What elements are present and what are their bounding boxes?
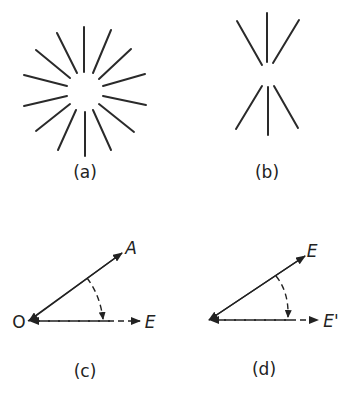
panel-b-lines [236, 13, 299, 135]
projection-label-e-prime: E' [323, 311, 338, 331]
caption-a: (a) [73, 162, 97, 182]
vector-e-back-arrow [209, 256, 305, 320]
rotation-arc-arrow-d [276, 276, 288, 317]
projection-label-e: E [145, 312, 156, 332]
vector-label-a: A [124, 238, 137, 258]
caption-c: (c) [74, 361, 97, 381]
rotation-arc-arrow [87, 278, 103, 319]
vector-label-e: E [307, 241, 318, 261]
origin-label-o: O [12, 312, 25, 332]
panel-c-vectors [28, 253, 140, 321]
caption-b: (b) [255, 162, 279, 182]
caption-d: (d) [252, 359, 276, 379]
figure: (a) (b) O A E (c) E E' (d) [0, 0, 358, 402]
panel-a-starburst [24, 27, 146, 156]
vector-ao-arrow [29, 253, 122, 321]
panel-d-vectors [209, 256, 318, 320]
